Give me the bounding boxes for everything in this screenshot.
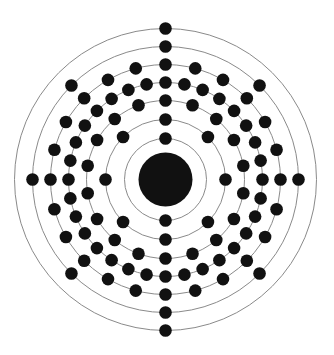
nucleus: [139, 153, 193, 207]
electron: [241, 92, 254, 105]
electron: [159, 58, 172, 71]
electron: [228, 134, 241, 147]
electron: [159, 40, 172, 53]
electron: [254, 154, 267, 167]
electron: [48, 143, 61, 156]
electron: [159, 233, 172, 246]
electron: [274, 173, 287, 186]
electron: [228, 213, 241, 226]
electron: [256, 173, 269, 186]
electron: [213, 254, 226, 267]
bohr-atom-diagram: [0, 0, 334, 355]
electron: [91, 242, 104, 255]
electron: [259, 116, 272, 129]
electron: [105, 93, 118, 106]
electron: [189, 284, 202, 297]
electron: [129, 62, 142, 75]
electron: [189, 62, 202, 75]
electron: [241, 255, 254, 268]
electron: [213, 93, 226, 106]
electron: [217, 273, 230, 286]
electron: [122, 263, 135, 276]
electron: [159, 132, 172, 145]
electron: [237, 159, 250, 172]
electron: [159, 113, 172, 126]
electron: [217, 74, 230, 87]
electron: [186, 99, 199, 112]
electron: [240, 227, 253, 240]
electron: [292, 173, 305, 186]
electron: [26, 173, 39, 186]
electron: [159, 306, 172, 319]
electron: [210, 234, 223, 247]
electron: [62, 173, 75, 186]
electron: [81, 159, 94, 172]
electron: [65, 267, 78, 280]
electron: [99, 173, 112, 186]
electron: [117, 131, 130, 144]
electron: [249, 210, 262, 223]
electron: [210, 113, 223, 126]
electron: [186, 247, 199, 260]
electron: [159, 22, 172, 35]
electron: [117, 216, 130, 229]
electron: [64, 154, 77, 167]
electron: [91, 105, 104, 118]
electron: [270, 143, 283, 156]
electron: [91, 134, 104, 147]
electron: [249, 136, 262, 149]
electron: [202, 216, 215, 229]
electron: [64, 192, 77, 205]
electron: [44, 173, 57, 186]
electron: [60, 231, 73, 244]
electron: [228, 105, 241, 118]
electron: [196, 263, 209, 276]
electron: [102, 74, 115, 87]
electron: [108, 113, 121, 126]
electron: [132, 247, 145, 260]
electron: [219, 173, 232, 186]
electron: [105, 254, 118, 267]
electron: [159, 252, 172, 265]
electron: [65, 79, 78, 92]
electron: [253, 79, 266, 92]
electron: [70, 136, 83, 149]
electron: [159, 270, 172, 283]
electron: [140, 268, 153, 281]
electron: [159, 94, 172, 107]
electron: [78, 92, 91, 105]
electron: [81, 187, 94, 200]
electron: [102, 273, 115, 286]
electron: [270, 203, 283, 216]
electron: [48, 203, 61, 216]
electron: [240, 119, 253, 132]
electron: [196, 84, 209, 97]
electron: [178, 78, 191, 91]
electron: [259, 231, 272, 244]
electron: [159, 76, 172, 89]
electron: [159, 214, 172, 227]
electron: [79, 227, 92, 240]
electron: [79, 119, 92, 132]
electron: [159, 288, 172, 301]
electron: [78, 255, 91, 268]
electron: [159, 324, 172, 337]
electron: [253, 267, 266, 280]
electron: [228, 242, 241, 255]
electron: [122, 84, 135, 97]
electron: [108, 234, 121, 247]
electron: [140, 78, 153, 91]
electron: [91, 213, 104, 226]
electron: [237, 187, 250, 200]
electron: [254, 192, 267, 205]
electron: [202, 131, 215, 144]
electron: [129, 284, 142, 297]
electron: [178, 268, 191, 281]
electron: [60, 116, 73, 129]
electron: [132, 99, 145, 112]
electron: [70, 210, 83, 223]
